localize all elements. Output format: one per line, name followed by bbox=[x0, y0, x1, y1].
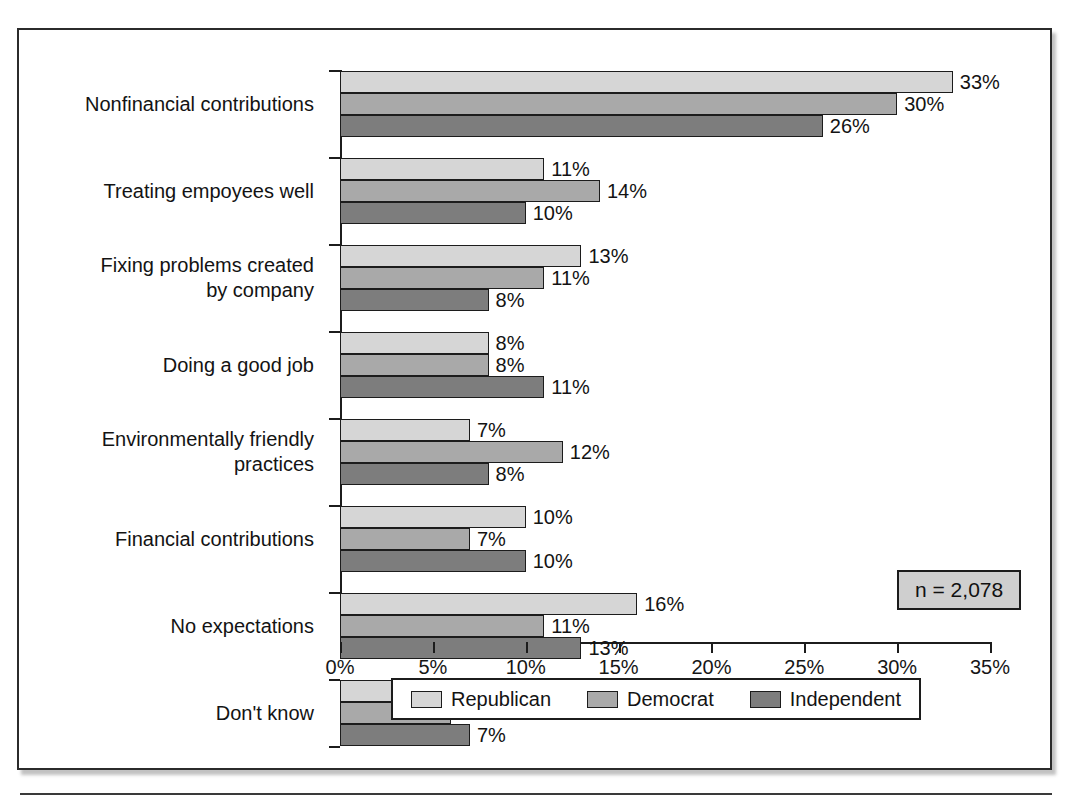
bar-democrat bbox=[340, 93, 897, 115]
bar-independent bbox=[340, 463, 489, 485]
y-axis-tick bbox=[329, 331, 340, 333]
legend-label: Independent bbox=[790, 688, 901, 711]
legend-swatch-icon bbox=[411, 691, 442, 708]
bar-value-label: 10% bbox=[533, 506, 573, 528]
bar-value-label: 26% bbox=[830, 115, 870, 137]
category-label: Fixing problems created by company bbox=[0, 253, 314, 303]
bar-value-label: 14% bbox=[607, 180, 647, 202]
bar-republican bbox=[340, 593, 637, 615]
bar-republican bbox=[340, 419, 470, 441]
x-axis-tick-label: 35% bbox=[970, 656, 1010, 679]
y-axis-tick bbox=[329, 505, 340, 507]
bar-value-label: 8% bbox=[496, 289, 525, 311]
bar-republican bbox=[340, 332, 489, 354]
bar-value-label: 33% bbox=[960, 71, 1000, 93]
y-axis-tick bbox=[329, 418, 340, 420]
sample-size-badge: n = 2,078 bbox=[897, 570, 1021, 610]
y-axis-tick bbox=[329, 244, 340, 246]
x-axis-tick-label: 5% bbox=[418, 656, 447, 679]
y-axis-tick bbox=[329, 157, 340, 159]
bar-democrat bbox=[340, 528, 470, 550]
bar-independent bbox=[340, 202, 526, 224]
legend-item-independent[interactable]: Independent bbox=[750, 688, 901, 711]
category-label: Don't know bbox=[0, 701, 314, 726]
bar-value-label: 11% bbox=[551, 267, 590, 289]
legend-item-democrat[interactable]: Democrat bbox=[587, 688, 714, 711]
legend-item-republican[interactable]: Republican bbox=[411, 688, 551, 711]
bar-democrat bbox=[340, 441, 563, 463]
x-axis-tick bbox=[990, 642, 992, 653]
bar-value-label: 8% bbox=[496, 354, 525, 376]
bar-value-label: 11% bbox=[551, 158, 590, 180]
bar-value-label: 7% bbox=[477, 419, 506, 441]
x-axis-tick-label: 15% bbox=[599, 656, 639, 679]
bar-republican bbox=[340, 158, 544, 180]
x-axis-tick bbox=[433, 642, 435, 653]
x-axis-tick-label: 25% bbox=[784, 656, 824, 679]
category-label: Doing a good job bbox=[0, 353, 314, 378]
bar-independent bbox=[340, 376, 544, 398]
bar-democrat bbox=[340, 354, 489, 376]
page-bottom-rule bbox=[20, 793, 1052, 795]
x-axis-tick bbox=[897, 642, 899, 653]
bar-value-label: 7% bbox=[477, 528, 506, 550]
x-axis-tick bbox=[526, 642, 528, 653]
x-axis-tick-label: 0% bbox=[326, 656, 355, 679]
legend-label: Republican bbox=[451, 688, 551, 711]
bar-value-label: 7% bbox=[477, 724, 506, 746]
bar-value-label: 13% bbox=[588, 245, 628, 267]
bar-republican bbox=[340, 245, 581, 267]
bar-republican bbox=[340, 506, 526, 528]
bar-independent bbox=[340, 550, 526, 572]
chart-frame: Nonfinancial contributionsTreating empoy… bbox=[17, 28, 1052, 770]
bar-value-label: 10% bbox=[533, 550, 573, 572]
legend-label: Democrat bbox=[627, 688, 714, 711]
bar-republican bbox=[340, 71, 953, 93]
bar-value-label: 8% bbox=[496, 463, 525, 485]
bar-independent bbox=[340, 724, 470, 746]
legend-swatch-icon bbox=[750, 691, 781, 708]
x-axis-tick bbox=[711, 642, 713, 653]
bar-democrat bbox=[340, 615, 544, 637]
x-axis-tick bbox=[804, 642, 806, 653]
x-axis-tick-label: 30% bbox=[877, 656, 917, 679]
x-axis-tick bbox=[619, 642, 621, 653]
bar-independent bbox=[340, 115, 823, 137]
bar-value-label: 30% bbox=[904, 93, 944, 115]
bar-value-label: 12% bbox=[570, 441, 610, 463]
y-axis-tick bbox=[329, 746, 340, 748]
category-label: Environmentally friendly practices bbox=[0, 427, 314, 477]
legend-swatch-icon bbox=[587, 691, 618, 708]
category-label: Nonfinancial contributions bbox=[0, 92, 314, 117]
category-label: Financial contributions bbox=[0, 527, 314, 552]
bar-independent bbox=[340, 289, 489, 311]
category-label: No expectations bbox=[0, 614, 314, 639]
bar-value-label: 16% bbox=[644, 593, 684, 615]
bar-democrat bbox=[340, 180, 600, 202]
category-label: Treating empoyees well bbox=[0, 179, 314, 204]
bar-chart: Nonfinancial contributionsTreating empoy… bbox=[19, 30, 1054, 772]
bar-value-label: 10% bbox=[533, 202, 573, 224]
chart-legend: RepublicanDemocratIndependent bbox=[391, 678, 921, 720]
y-axis-tick bbox=[329, 592, 340, 594]
bar-democrat bbox=[340, 267, 544, 289]
x-axis-tick-label: 10% bbox=[506, 656, 546, 679]
y-axis-tick bbox=[329, 70, 340, 72]
bar-value-label: 8% bbox=[496, 332, 525, 354]
y-axis-tick bbox=[329, 679, 340, 681]
x-axis-tick bbox=[340, 642, 342, 653]
bar-value-label: 11% bbox=[551, 615, 590, 637]
x-axis-tick-label: 20% bbox=[691, 656, 731, 679]
bar-value-label: 11% bbox=[551, 376, 590, 398]
